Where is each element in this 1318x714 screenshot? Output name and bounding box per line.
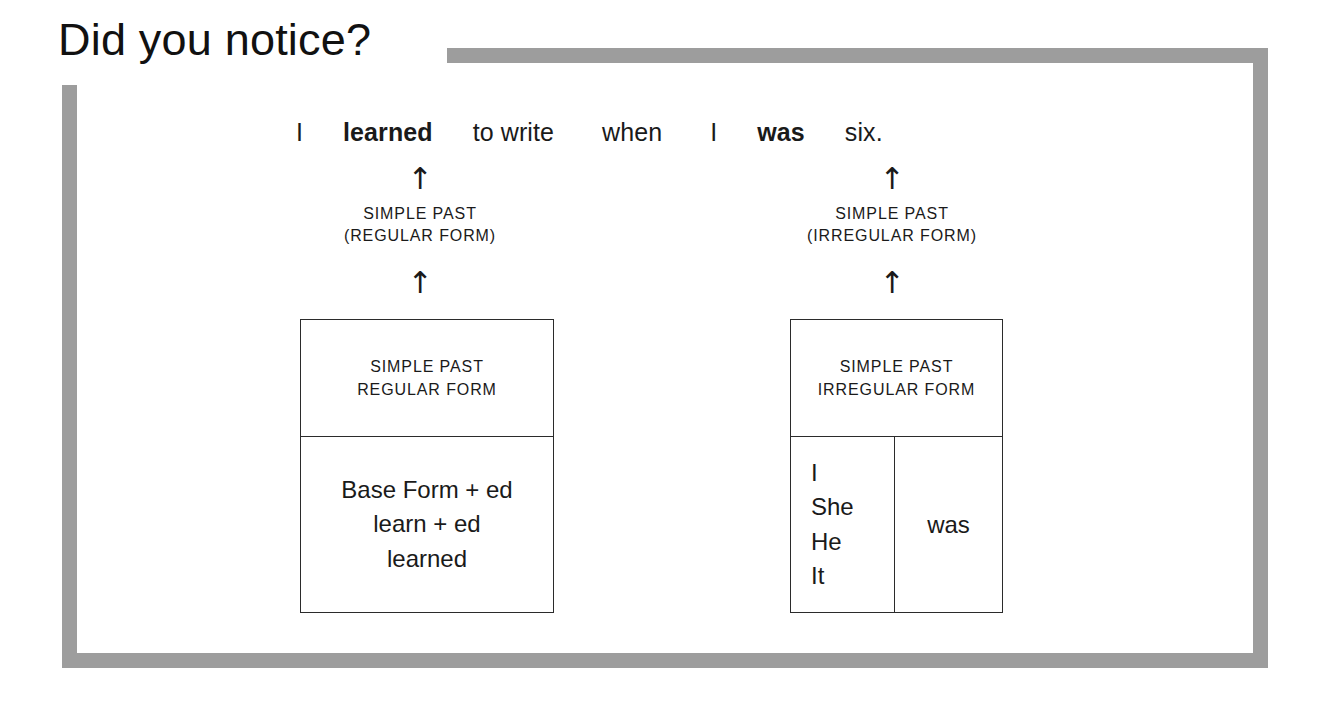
arrow-up-icon-left-bottom: ↑	[400, 268, 440, 298]
sentence-word-learned: learned	[343, 118, 433, 147]
frame-bar-right	[1253, 48, 1268, 668]
arrow-up-icon-left-top: ↑	[400, 164, 440, 194]
irregular-form-header-line1: SIMPLE PAST	[818, 355, 976, 378]
sentence-word-was: was	[757, 118, 805, 147]
regular-form-rule-line3: learned	[341, 542, 512, 576]
example-sentence: I learned to write when I was six.	[296, 118, 883, 154]
caption-left-line1: SIMPLE PAST	[270, 203, 570, 225]
sentence-word-1: I	[296, 118, 303, 147]
caption-right-line1: SIMPLE PAST	[742, 203, 1042, 225]
regular-form-rule-line1: Base Form + ed	[341, 473, 512, 507]
caption-left: SIMPLE PAST (REGULAR FORM)	[270, 203, 570, 246]
regular-form-rule: Base Form + ed learn + ed learned	[341, 473, 512, 575]
regular-form-rule-line2: learn + ed	[341, 507, 512, 541]
frame-bar-top	[447, 48, 1268, 63]
caption-right-line2: (IRREGULAR FORM)	[742, 225, 1042, 247]
pronoun-item: It	[811, 559, 824, 593]
arrow-up-icon-right-top: ↑	[872, 164, 912, 194]
irregular-form-header-line2: IRREGULAR FORM	[818, 378, 976, 401]
pronoun-column: I She He It	[791, 437, 895, 612]
verb-column: was	[895, 437, 1002, 612]
regular-form-box-header: SIMPLE PAST REGULAR FORM	[301, 320, 553, 437]
regular-form-box: SIMPLE PAST REGULAR FORM Base Form + ed …	[300, 319, 554, 613]
sentence-word-when: when	[602, 118, 662, 147]
regular-form-header-line1: SIMPLE PAST	[357, 355, 497, 378]
irregular-form-box-header: SIMPLE PAST IRREGULAR FORM	[791, 320, 1002, 437]
pronoun-item: I	[811, 456, 818, 490]
page-root: Did you notice? I learned to write when …	[0, 0, 1318, 714]
irregular-verb-form: was	[927, 511, 970, 539]
sentence-word-2: I	[710, 118, 717, 147]
irregular-form-box-header-text: SIMPLE PAST IRREGULAR FORM	[818, 355, 976, 401]
regular-form-box-body: Base Form + ed learn + ed learned	[301, 437, 553, 612]
pronoun-item: He	[811, 525, 842, 559]
irregular-form-box: SIMPLE PAST IRREGULAR FORM I She He It w…	[790, 319, 1003, 613]
sentence-word-six: six.	[845, 118, 883, 147]
irregular-form-box-body: I She He It was	[791, 437, 1002, 612]
caption-left-line2: (REGULAR FORM)	[270, 225, 570, 247]
regular-form-header-line2: REGULAR FORM	[357, 378, 497, 401]
frame-bar-left	[62, 85, 77, 668]
arrow-up-icon-right-bottom: ↑	[872, 268, 912, 298]
pronoun-item: She	[811, 490, 854, 524]
frame-bar-bottom	[62, 653, 1268, 668]
sentence-word-to-write: to write	[473, 118, 554, 147]
page-title: Did you notice?	[58, 16, 371, 63]
caption-right: SIMPLE PAST (IRREGULAR FORM)	[742, 203, 1042, 246]
regular-form-box-header-text: SIMPLE PAST REGULAR FORM	[357, 355, 497, 401]
